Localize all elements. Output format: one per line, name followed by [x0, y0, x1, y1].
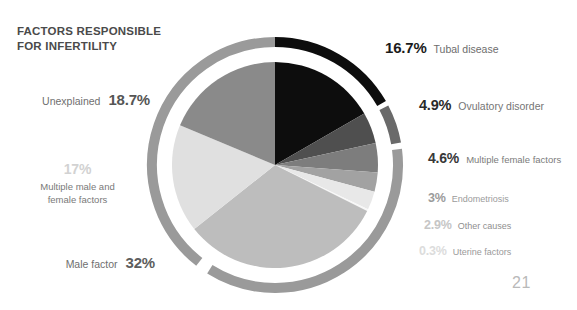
- value-other-causes: 2.9%: [424, 218, 452, 232]
- name-other-causes: Other causes: [458, 221, 512, 231]
- name-unexplained: Unexplained: [42, 95, 100, 107]
- name-ovulatory-disorder: Ovulatory disorder: [458, 100, 544, 112]
- name-endometriosis: Endometriosis: [452, 194, 509, 204]
- value-uterine-factors: 0.3%: [419, 244, 447, 258]
- label-ovulatory-disorder: 4.9%Ovulatory disorder: [419, 97, 544, 113]
- value-ovulatory-disorder: 4.9%: [419, 97, 451, 113]
- infertility-pie-chart: FACTORS RESPONSIBLE FOR INFERTILITY 16.7…: [0, 0, 577, 310]
- value-endometriosis: 3%: [428, 191, 446, 205]
- value-tubal-disease: 16.7%: [385, 39, 427, 56]
- name-uterine-factors: Uterine factors: [453, 247, 512, 257]
- value-unexplained: 18.7%: [108, 91, 150, 108]
- pie-slices: [172, 62, 378, 268]
- page-number: 21: [512, 274, 531, 292]
- value-male-factor: 32%: [126, 254, 155, 271]
- label-multiple-female-factors: 4.6%Multiple female factors: [428, 150, 561, 166]
- label-tubal-disease: 16.7%Tubal disease: [385, 40, 499, 56]
- label-unexplained: Unexplained18.7%: [0, 92, 150, 108]
- label-uterine-factors: 0.3%Uterine factors: [419, 242, 511, 258]
- label-male-factor: Male factor32%: [0, 255, 155, 271]
- label-other-causes: 2.9%Other causes: [424, 216, 511, 232]
- name-multiple-male-and-female-factors-line-1: Multiple male and: [0, 180, 155, 193]
- name-male-factor: Male factor: [66, 258, 118, 270]
- name-multiple-male-and-female-factors-line-2: female factors: [0, 193, 155, 206]
- label-endometriosis: 3%Endometriosis: [428, 189, 509, 205]
- ring-segment: [384, 108, 396, 144]
- value-multiple-female-factors: 4.6%: [428, 150, 459, 166]
- value-multiple-male-and-female-factors: 17%: [0, 162, 155, 176]
- name-tubal-disease: Tubal disease: [434, 43, 499, 55]
- label-multiple-male-and-female-factors: 17% Multiple male and female factors: [0, 162, 155, 206]
- pie-chart-graphic: [142, 8, 408, 304]
- pie-svg: [142, 8, 408, 304]
- name-multiple-female-factors: Multiple female factors: [466, 154, 561, 165]
